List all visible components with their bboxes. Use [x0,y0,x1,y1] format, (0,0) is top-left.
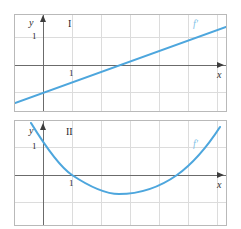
derivative-parabola-curve [15,121,226,225]
curve-label-two: f' [193,139,198,149]
figure-canvas: y x 1 1 I f' y x [0,0,241,229]
y-axis-tick-one: 1 [32,32,37,41]
x-axis-label: x [217,180,221,190]
curve-label-one: f' [193,19,198,29]
y-axis-label: y [29,126,33,136]
graph-panel-two: y x 1 1 II f' [14,120,227,226]
y-axis-tick-one: 1 [32,142,37,151]
x-axis-label: x [217,70,221,80]
derivative-line-curve [15,15,226,111]
plot-area-two: y x 1 1 II f' [15,121,226,225]
plot-area-one: y x 1 1 I f' [15,15,226,111]
panel-label-two: II [66,127,73,137]
graph-panel-one: y x 1 1 I f' [14,14,227,112]
panel-label-one: I [68,19,71,29]
y-axis-label: y [29,18,33,28]
x-axis-tick-one: 1 [69,69,74,78]
x-axis-tick-one: 1 [69,179,74,188]
